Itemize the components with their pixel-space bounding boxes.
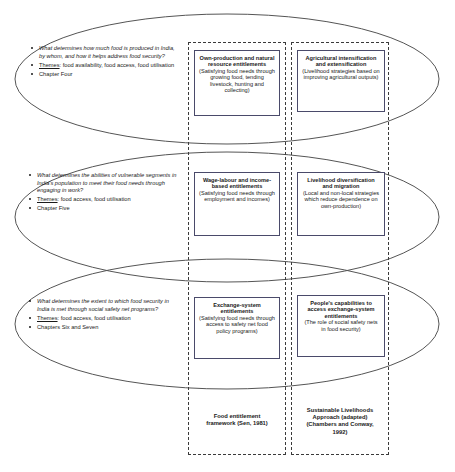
concept-box-peoples-capabilities: People's capabilities to access exchange… [297, 295, 385, 357]
bullet-list-row-two: What determines the abilities of vulnera… [28, 172, 178, 213]
concept-box-subtitle: (Satisfying food needs through growing f… [199, 68, 275, 94]
diagram-canvas: What determines how much food is produce… [0, 0, 455, 472]
research-question-row-three: What determines the extent to which food… [28, 298, 178, 313]
concept-box-livelihood-diversification: Livelihood diversification and migration… [297, 172, 385, 236]
caption-line-4: 1992) [293, 429, 387, 436]
question-group-row-one: What determines how much food is produce… [30, 45, 180, 80]
bullet-list-row-one: What determines how much food is produce… [30, 45, 180, 78]
concept-box-title: Wage-labour and income-based entitlement… [199, 177, 275, 190]
concept-box-subtitle: (Livelihood strategies based on improvin… [302, 68, 380, 81]
themes-row-two: Themes: food access, food utilisation [28, 196, 178, 204]
chapter-row-two: Chapter Five [28, 205, 178, 213]
concept-box-subtitle: (The role of social safety nets in food … [302, 319, 380, 332]
framework-caption-sustainable-livelihoods: Sustainable Livelihoods Approach (adapte… [293, 407, 387, 436]
concept-box-exchange-system-entitlements: Exchange-system entitlements (Satisfying… [194, 297, 280, 359]
concept-box-subtitle: (Local and non-local strategies which re… [302, 190, 380, 209]
caption-line-1: Sustainable Livelihoods [293, 407, 387, 414]
concept-box-subtitle: (Satisfying food needs through employmen… [199, 190, 275, 203]
concept-box-title: Agricultural intensification and extensi… [302, 55, 380, 68]
concept-box-own-production-entitlements: Own-production and natural resource enti… [194, 50, 280, 116]
themes-row-three: Themes: food access, food utilisation [28, 315, 178, 323]
concept-box-title: People's capabilities to access exchange… [302, 300, 380, 319]
caption-line-2: Approach (adapted) [293, 414, 387, 421]
themes-row-one: Themes: food availability, food access, … [30, 62, 180, 70]
concept-box-title: Exchange-system entitlements [199, 302, 275, 315]
framework-caption-food-entitlement: Food entitlement framework (Sen, 1981) [190, 413, 284, 427]
concept-box-wage-labour-entitlements: Wage-labour and income-based entitlement… [194, 172, 280, 236]
caption-line-1: Food entitlement [190, 413, 284, 420]
chapter-row-three: Chapters Six and Seven [28, 324, 178, 332]
bullet-list-row-three: What determines the extent to which food… [28, 298, 178, 331]
caption-line-3: (Chambers and Conway, [293, 421, 387, 428]
concept-box-title: Own-production and natural resource enti… [199, 55, 275, 68]
research-question-row-two: What determines the abilities of vulnera… [28, 172, 178, 195]
concept-box-agricultural-intensification: Agricultural intensification and extensi… [297, 50, 385, 112]
concept-box-subtitle: (Satisfying food needs through access to… [199, 315, 275, 334]
question-group-row-two: What determines the abilities of vulnera… [28, 172, 178, 214]
caption-line-2: framework (Sen, 1981) [190, 420, 284, 427]
concept-box-title: Livelihood diversification and migration [302, 177, 380, 190]
research-question-row-one: What determines how much food is produce… [30, 45, 180, 60]
chapter-row-one: Chapter Four [30, 71, 180, 79]
question-group-row-three: What determines the extent to which food… [28, 298, 178, 333]
